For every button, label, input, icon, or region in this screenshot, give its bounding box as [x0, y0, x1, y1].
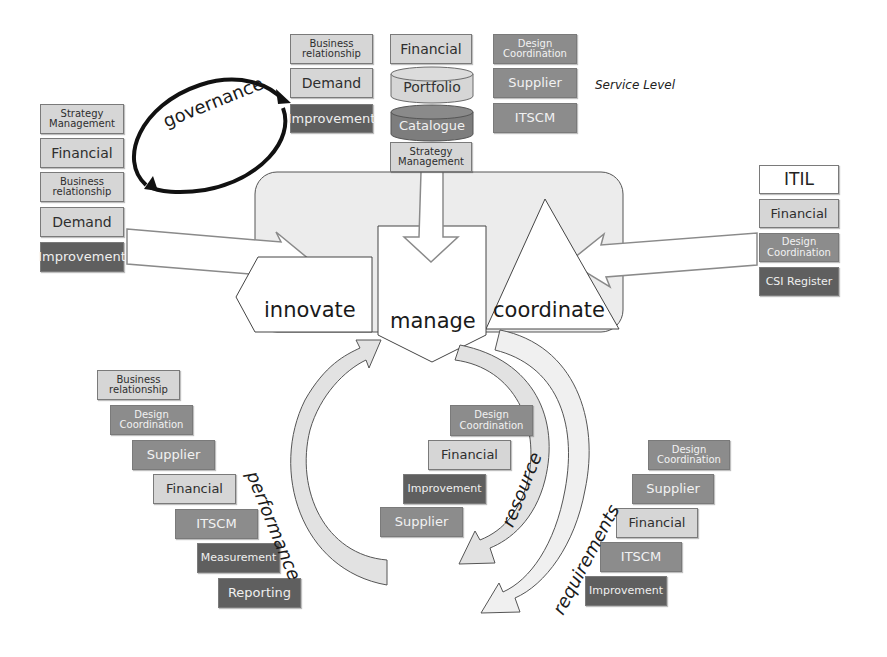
res-improvement: Improvement	[403, 474, 486, 504]
perf-business-relationship: Business relationship	[97, 370, 180, 400]
coordinate-label: coordinate	[493, 298, 605, 322]
box-financial-left: Financial	[40, 138, 124, 168]
res-supplier: Supplier	[380, 507, 463, 537]
portfolio-label: Portfolio	[390, 79, 474, 95]
req-financial: Financial	[616, 508, 698, 538]
box-design-coordination-right: Design Coordination	[759, 233, 839, 262]
box-financial-right: Financial	[759, 199, 839, 228]
req-design-coordination: Design Coordination	[648, 440, 730, 470]
box-business-relationship-left: Business relationship	[40, 172, 124, 202]
manage-label: manage	[390, 309, 476, 333]
box-itscm-top: ITSCM	[493, 103, 577, 133]
perf-itscm: ITSCM	[175, 509, 258, 539]
box-csi-register: CSI Register	[759, 267, 839, 296]
perf-design-coordination: Design Coordination	[110, 405, 193, 435]
box-improvement-left: Improvement	[40, 242, 124, 272]
perf-financial: Financial	[153, 474, 236, 504]
req-itscm: ITSCM	[600, 542, 682, 572]
right-input-arrow	[569, 233, 757, 287]
req-supplier: Supplier	[632, 474, 714, 504]
box-demand-top: Demand	[290, 68, 373, 98]
innovate-label: innovate	[264, 298, 356, 322]
perf-reporting: Reporting	[218, 578, 301, 608]
governance-arrowhead-icon	[276, 89, 291, 104]
perf-measurement: Measurement	[197, 543, 280, 573]
box-financial-top: Financial	[390, 34, 472, 64]
service-level-label: Service Level	[595, 78, 675, 92]
box-improvement-top: Improvement	[290, 104, 373, 133]
box-itil: ITIL	[759, 165, 839, 194]
box-business-relationship-top: Business relationship	[290, 34, 373, 64]
catalogue-label: Catalogue	[390, 118, 474, 133]
box-design-coordination-top: Design Coordination	[493, 34, 577, 64]
performance-arrow	[291, 340, 387, 585]
res-design-coordination: Design Coordination	[450, 405, 533, 436]
perf-supplier: Supplier	[132, 440, 215, 470]
box-strategy-management-left: Strategy Management	[40, 104, 124, 134]
box-strategy-management-top: Strategy Management	[390, 142, 472, 172]
req-improvement: Improvement	[585, 576, 667, 606]
box-supplier-top: Supplier	[493, 68, 577, 98]
res-financial: Financial	[428, 440, 511, 470]
box-demand-left: Demand	[40, 207, 124, 237]
